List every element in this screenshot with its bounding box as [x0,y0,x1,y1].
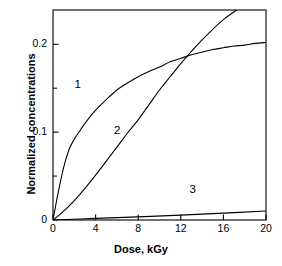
x-tick-label: 8 [125,222,151,234]
curve-label-2: 2 [114,124,120,136]
x-tick-label: 4 [83,222,109,234]
x-axis-title: Dose, kGy [0,243,282,255]
x-tick-label: 20 [253,222,279,234]
y-tick-label: 0.2 [17,37,47,49]
x-tick-label: 16 [210,222,236,234]
curve-label-1: 1 [74,78,80,90]
curve-label-3: 3 [190,183,196,195]
chart-figure: Dose, kGy Normalized concentrations 0481… [0,0,282,266]
x-tick-label: 12 [168,222,194,234]
y-tick-label: 0 [17,213,47,225]
y-axis-title: Normalized concentrations [25,39,37,209]
y-tick-label: 0.1 [17,125,47,137]
